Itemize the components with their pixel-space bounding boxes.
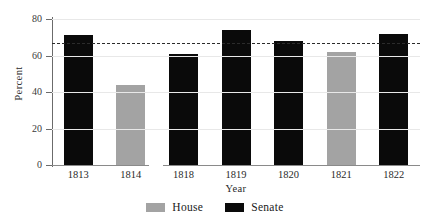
- legend-label-house: House: [172, 201, 203, 213]
- y-tick-label-60: 60: [12, 51, 42, 61]
- legend-item-house[interactable]: House: [146, 201, 203, 213]
- x-axis-line-right: [163, 165, 420, 166]
- bar-1818-senate[interactable]: [169, 54, 198, 165]
- x-tick-label-1820: 1820: [266, 169, 312, 181]
- gridline-40: [52, 92, 420, 93]
- reference-line-two-thirds: [52, 43, 420, 44]
- x-tick-label-1814: 1814: [108, 169, 154, 181]
- gridline-20: [52, 129, 420, 130]
- x-axis-label: Year: [52, 183, 420, 194]
- y-tick-label-0: 0: [12, 160, 42, 170]
- y-tick-mark-0: [46, 165, 52, 166]
- legend-swatch-senate-icon: [225, 203, 244, 212]
- x-axis-line-left: [52, 165, 149, 166]
- bar-1814-house[interactable]: [116, 85, 145, 165]
- x-tick-label-1821: 1821: [318, 169, 364, 181]
- legend-item-senate[interactable]: Senate: [225, 201, 283, 213]
- y-tick-label-80: 80: [12, 14, 42, 24]
- bar-1819-senate[interactable]: [222, 30, 251, 165]
- x-tick-label-1813: 1813: [55, 169, 101, 181]
- legend-label-senate: Senate: [251, 201, 283, 213]
- gridline-60: [52, 56, 420, 57]
- y-tick-label-20: 20: [12, 124, 42, 134]
- y-tick-label-40: 40: [12, 87, 42, 97]
- bar-1821-house[interactable]: [327, 52, 356, 165]
- x-tick-label-1818: 1818: [160, 169, 206, 181]
- x-tick-label-1822: 1822: [371, 169, 417, 181]
- bar-1820-senate[interactable]: [274, 41, 303, 165]
- bar-1822-senate[interactable]: [379, 34, 408, 165]
- chart-title: [0, 0, 430, 4]
- chart-figure: Percent 020406080 1813181418181819182018…: [0, 0, 430, 222]
- chart-legend: House Senate: [0, 201, 430, 213]
- gridline-80: [52, 19, 420, 20]
- legend-swatch-house-icon: [146, 203, 165, 212]
- plot-area: [52, 19, 420, 165]
- x-tick-label-1819: 1819: [213, 169, 259, 181]
